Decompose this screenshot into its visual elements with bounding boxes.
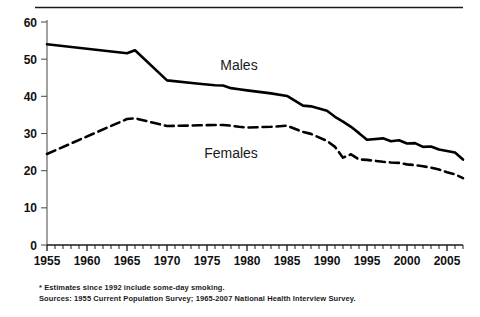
x-tick-label-2000: 2000 [394, 254, 421, 268]
series-label-males: Males [220, 57, 257, 73]
series-inline-labels: MalesFemales [204, 57, 258, 160]
y-axis-tick-labels: 0102030405060 [24, 16, 38, 253]
chart-figure: 0102030405060 19551960196519701975198019… [0, 0, 480, 317]
y-tick-label-20: 20 [24, 164, 38, 178]
x-tick-label-1975: 1975 [194, 254, 221, 268]
series-label-females: Females [204, 145, 258, 161]
x-tick-label-2005: 2005 [434, 254, 461, 268]
y-axis-ticks [41, 22, 47, 245]
x-tick-label-1955: 1955 [34, 254, 61, 268]
y-tick-label-40: 40 [24, 90, 38, 104]
footnote-sources: Sources: 1955 Current Population Survey;… [39, 294, 459, 305]
y-tick-label-30: 30 [24, 127, 38, 141]
x-tick-label-1980: 1980 [234, 254, 261, 268]
x-axis-tick-labels: 1955196019651970197519801985199019952000… [34, 254, 461, 268]
x-tick-label-1970: 1970 [154, 254, 181, 268]
y-tick-label-10: 10 [24, 201, 38, 215]
footnote-estimates-note: * Estimates since 1992 include some-day … [39, 283, 459, 294]
y-tick-label-60: 60 [24, 16, 38, 30]
x-tick-label-1960: 1960 [74, 254, 101, 268]
x-axis-minor-ticks [47, 245, 463, 251]
footnote-block: * Estimates since 1992 include some-day … [39, 283, 459, 304]
x-tick-label-1995: 1995 [354, 254, 381, 268]
x-tick-label-1990: 1990 [314, 254, 341, 268]
x-tick-label-1985: 1985 [274, 254, 301, 268]
y-tick-label-0: 0 [30, 239, 37, 253]
x-tick-label-1965: 1965 [114, 254, 141, 268]
smoking-prevalence-line-chart: 0102030405060 19551960196519701975198019… [0, 0, 480, 317]
y-tick-label-50: 50 [24, 53, 38, 67]
